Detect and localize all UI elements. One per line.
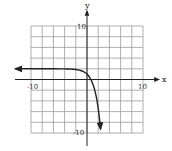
function-curve <box>15 69 100 129</box>
y-axis-label: y <box>84 1 90 10</box>
y-min-label: -10 <box>73 129 84 137</box>
x-min-label: -10 <box>27 83 38 91</box>
y-max-label: 10 <box>77 23 86 31</box>
x-max-label: 10 <box>138 83 147 91</box>
x-axis-label: x <box>162 75 167 84</box>
graph: x y -10 10 10 -10 <box>0 0 172 151</box>
